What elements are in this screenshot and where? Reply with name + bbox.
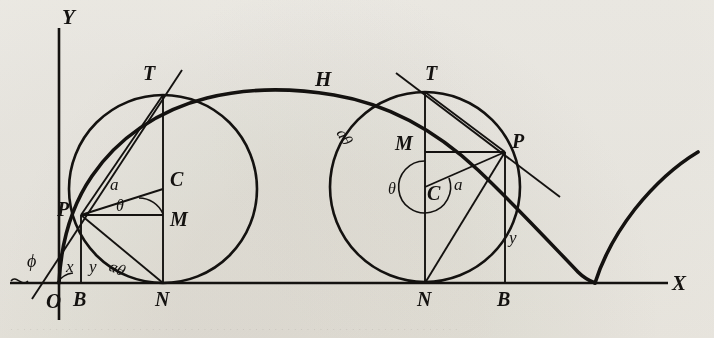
right-label-B: B — [496, 288, 510, 310]
right-label-T: T — [425, 62, 438, 84]
left-label-C: C — [170, 168, 184, 190]
right-label-a: a — [454, 175, 463, 194]
origin-label: O — [46, 289, 61, 313]
right-label-theta: θ — [388, 180, 396, 197]
left-label-P: P — [56, 198, 70, 220]
right-chord-NP — [425, 152, 505, 283]
left-label-M: M — [169, 208, 189, 230]
left-label-phi: ϕ — [27, 251, 36, 271]
right-tangent-group — [396, 73, 560, 197]
right-label-M: M — [394, 132, 414, 154]
left-label-T: T — [143, 62, 156, 84]
x-axis-label: X — [671, 271, 687, 295]
right-tangent-line — [396, 73, 560, 197]
cycloid-figure: Y X O H T C M P N B a θ x — [0, 0, 714, 338]
cycloid-arch — [59, 90, 595, 283]
cycloid-next-arch-tail — [595, 152, 698, 283]
left-label-y: y — [87, 257, 97, 276]
right-label-atheta: aθ — [333, 126, 356, 149]
right-label-y: y — [507, 228, 517, 247]
left-label-theta: θ — [116, 197, 124, 214]
cycloid-curve-group: H — [59, 67, 698, 283]
cycloid-label-H: H — [314, 67, 332, 91]
left-label-B: B — [72, 288, 86, 310]
right-label-C: C — [427, 182, 441, 204]
right-label-P: P — [511, 130, 525, 152]
left-label-N: N — [154, 288, 171, 310]
right-label-N: N — [416, 288, 433, 310]
y-axis-label: Y — [62, 5, 77, 29]
left-theta-arc — [139, 198, 163, 214]
